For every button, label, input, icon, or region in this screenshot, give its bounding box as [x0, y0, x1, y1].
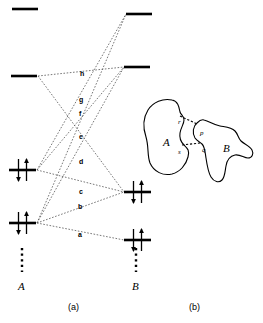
group-label-A: A	[18, 280, 25, 292]
group-label-B: B	[132, 280, 139, 292]
site-label-s: s	[178, 148, 181, 156]
site-label-r: r	[178, 118, 181, 126]
spin-down-head-A2	[16, 177, 21, 182]
blob-label-A: A	[163, 136, 170, 148]
spin-up-head-A2	[24, 158, 29, 163]
figure-canvas	[0, 0, 263, 323]
spin-up-head-B1	[139, 228, 144, 233]
figure-container: abcdefghABABrspq(a)(b)	[0, 0, 263, 323]
spin-down-head-A1	[16, 230, 21, 235]
coupling-label-g: g	[79, 96, 83, 103]
spin-down-head-B2	[131, 199, 136, 204]
blob-label-B: B	[223, 142, 230, 154]
overlap-blobs-layer	[144, 99, 253, 181]
coupling-label-e: e	[79, 133, 83, 140]
overlap-link-sq	[182, 143, 200, 145]
spin-up-head-A1	[24, 211, 29, 216]
coupling-label-h: h	[80, 70, 84, 77]
coupling-line-e	[37, 67, 124, 223]
site-label-q: q	[202, 146, 206, 154]
coupling-line-d	[37, 67, 124, 170]
spin-up-head-B2	[139, 180, 144, 185]
coupling-label-a: a	[78, 231, 82, 238]
panel-caption-a: (a)	[68, 302, 79, 312]
coupling-label-b: b	[78, 203, 82, 210]
overlap-link-rp	[180, 116, 197, 124]
coupling-label-d: d	[79, 158, 83, 165]
coupling-label-c: c	[79, 188, 83, 195]
continuation-dots-layer	[22, 248, 136, 272]
site-label-p: p	[200, 129, 204, 137]
energy-levels-layer	[9, 9, 152, 252]
coupling-label-f: f	[79, 110, 81, 117]
panel-caption-b: (b)	[189, 302, 200, 312]
